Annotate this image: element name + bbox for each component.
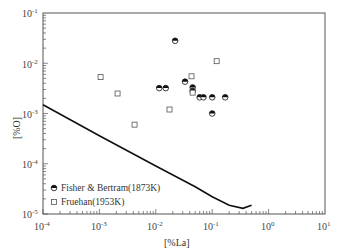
x-tick-labels: 10-4 10-3 10-2 10-1 100 101 (34, 220, 331, 232)
fruehan-point (115, 91, 120, 96)
svg-text:Fruehan(1953K): Fruehan(1953K) (61, 197, 124, 208)
data-points (98, 38, 228, 127)
legend: Fisher & Bertram(1873K) Fruehan(1953K) (51, 183, 160, 208)
fisher-point (156, 85, 162, 91)
svg-text:10-2: 10-2 (147, 220, 163, 232)
svg-text:10-2: 10-2 (22, 58, 38, 70)
fisher-point (201, 95, 207, 101)
legend-item-fruehan: Fruehan(1953K) (52, 197, 125, 208)
fisher-point (209, 95, 215, 101)
svg-text:100: 100 (261, 220, 275, 232)
fisher-point (209, 111, 215, 117)
fruehan-point (132, 122, 137, 127)
fruehan-point (98, 75, 103, 80)
fisher-point (222, 95, 228, 101)
y-axis-label: [%O] (11, 117, 22, 139)
log-log-scatter-chart: 10-1 10-2 10-3 10-4 10-5 10-4 10-3 10-2 … (0, 0, 340, 251)
svg-text:Fisher & Bertram(1873K): Fisher & Bertram(1873K) (61, 183, 160, 194)
svg-text:10-4: 10-4 (34, 220, 50, 232)
svg-text:10-3: 10-3 (22, 108, 38, 120)
y-tick-labels: 10-1 10-2 10-3 10-4 10-5 (22, 7, 38, 220)
svg-text:10-1: 10-1 (22, 7, 38, 19)
fruehan-point (189, 74, 194, 79)
fruehan-point (190, 90, 195, 95)
legend-item-fisher: Fisher & Bertram(1873K) (51, 183, 160, 194)
fisher-point (163, 85, 169, 91)
fruehan-point (214, 59, 219, 64)
x-axis-label: [%La] (164, 237, 190, 248)
svg-text:10-4: 10-4 (22, 158, 38, 170)
fisher-point (182, 79, 188, 85)
svg-text:101: 101 (317, 220, 331, 232)
svg-text:10-5: 10-5 (22, 208, 38, 220)
svg-text:10-3: 10-3 (91, 220, 107, 232)
fisher-point (172, 38, 178, 44)
svg-text:10-1: 10-1 (203, 220, 219, 232)
fruehan-point (167, 107, 172, 112)
